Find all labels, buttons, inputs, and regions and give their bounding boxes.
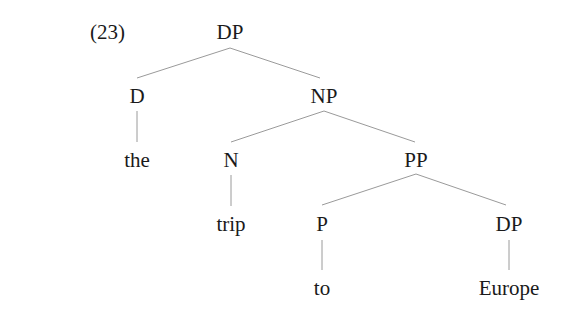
node-p: P	[316, 212, 328, 236]
leaf-to: to	[314, 276, 330, 300]
node-d: D	[129, 84, 144, 108]
leaf-trip: trip	[216, 212, 245, 236]
edge-np-n	[231, 111, 324, 142]
leaf-the: the	[124, 148, 150, 172]
edge-pp-dp	[416, 174, 506, 205]
edge-dp-np	[230, 48, 320, 78]
node-pp: PP	[404, 148, 427, 172]
node-np: NP	[311, 84, 338, 108]
edge-pp-p	[322, 174, 416, 205]
leaf-europe: Europe	[479, 276, 540, 300]
edge-np-pp	[324, 111, 415, 142]
tree-edges	[0, 0, 577, 316]
node-dp-root: DP	[217, 20, 244, 44]
node-dp-object: DP	[496, 212, 523, 236]
node-n: N	[223, 148, 238, 172]
edge-dp-d	[137, 48, 230, 78]
